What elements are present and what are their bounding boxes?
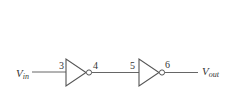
node-4-label: 4 <box>93 60 98 71</box>
inverter-1 <box>66 59 92 86</box>
inverter-triangle-icon <box>66 59 86 86</box>
node-3-label: 3 <box>59 60 64 71</box>
vout-label: Vout <box>202 65 220 79</box>
inverter-2 <box>139 59 165 86</box>
inverter-chain-diagram: Vin 3 4 5 6 Vout <box>0 0 231 99</box>
inversion-bubble-icon <box>159 70 164 75</box>
inverter-triangle-icon <box>139 59 159 86</box>
node-5-label: 5 <box>130 60 135 71</box>
node-6-label: 6 <box>165 59 170 70</box>
inversion-bubble-icon <box>86 70 91 75</box>
vin-label: Vin <box>16 67 29 81</box>
